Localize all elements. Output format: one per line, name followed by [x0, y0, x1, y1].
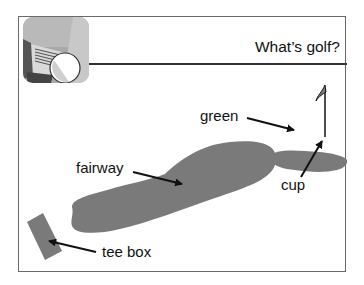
golf-hole-diagram: green fairway cup tee box — [0, 0, 364, 285]
tee-box-shape — [27, 213, 62, 260]
arrow-green — [247, 118, 294, 130]
fairway-shape — [71, 141, 276, 233]
label-green: green — [200, 107, 238, 124]
label-fairway: fairway — [76, 159, 124, 176]
label-tee-box: tee box — [102, 243, 152, 260]
label-cup: cup — [281, 176, 305, 193]
green-shape — [268, 151, 347, 172]
